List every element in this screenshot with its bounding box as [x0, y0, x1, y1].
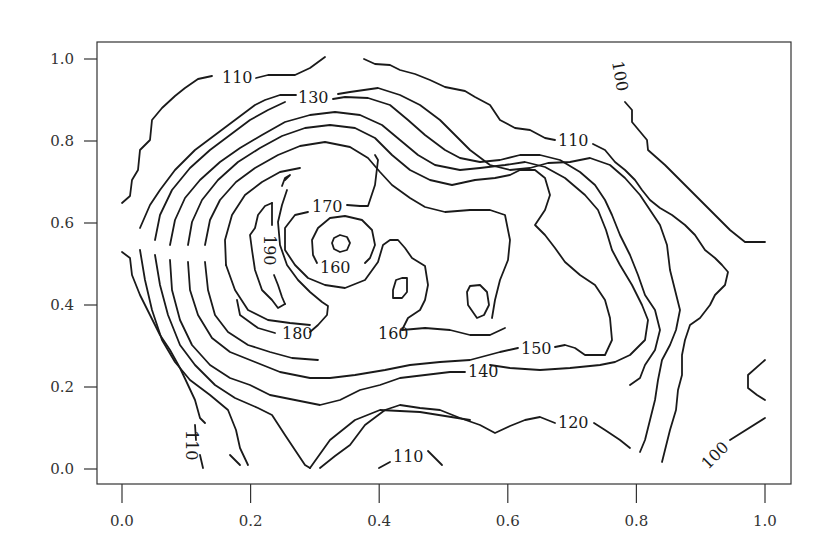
- contour-110-bottom-b: [428, 451, 442, 465]
- contour-170-ring: [285, 212, 428, 330]
- x-tick-label: 0.4: [367, 512, 391, 530]
- contour-label-110-bottom: 110: [393, 447, 424, 466]
- contour-160-outer: [205, 142, 510, 318]
- x-tick-label: 0.8: [624, 512, 648, 530]
- contour-lines: [122, 57, 765, 468]
- contour-190-c: [274, 275, 285, 304]
- contour-110-upper-left-b: [256, 57, 325, 78]
- contour-120-b: [338, 88, 680, 452]
- contour-label-110-right: 110: [558, 131, 589, 150]
- contour-130-lower-b: [310, 410, 470, 468]
- plot-frame: [97, 42, 791, 484]
- contour-label-110-left: 110: [182, 430, 201, 461]
- contour-label-120: 120: [558, 413, 589, 432]
- y-tick-label: 0.0: [50, 460, 74, 478]
- y-axis: 0.0 0.2 0.4 0.6 0.8 1.0: [50, 50, 97, 478]
- contour-label-150: 150: [521, 339, 552, 358]
- contour-label-130-top: 130: [298, 88, 329, 107]
- contour-label-100-top-right: 100: [608, 59, 632, 92]
- contour-label-110-top: 110: [222, 68, 253, 87]
- contour-label-100-bottom-right: 100: [697, 438, 732, 473]
- contour-100-bottom-right: [730, 418, 765, 440]
- contour-label-170: 170: [312, 197, 343, 216]
- contour-130-lower: [155, 255, 310, 468]
- x-tick-label: 0.6: [496, 512, 520, 530]
- y-tick-label: 0.6: [50, 214, 74, 232]
- contour-label-160-lower: 160: [378, 324, 409, 343]
- contour-bottom-left-flicker: [230, 455, 240, 465]
- x-tick-label: 0.2: [239, 512, 263, 530]
- contour-160-outer-b: [402, 328, 505, 335]
- y-tick-label: 0.8: [50, 132, 74, 150]
- contour-island-right: [467, 285, 489, 318]
- contour-peak-ring: [332, 235, 350, 252]
- contour-chart: 0.0 0.2 0.4 0.6 0.8 1.0 0.0 0.2 0.4 0.6 …: [0, 0, 830, 558]
- contour-110-right: [593, 144, 728, 462]
- contour-island-left: [393, 278, 407, 298]
- contour-170-left: [237, 300, 275, 333]
- contour-110-bottom: [379, 462, 390, 468]
- y-tick-label: 0.4: [50, 296, 74, 314]
- contour-180: [282, 175, 290, 186]
- contour-110-upper-left: [122, 76, 212, 203]
- contour-150-left: [188, 262, 518, 378]
- y-tick-label: 0.2: [50, 378, 74, 396]
- contour-100-right-vee: [748, 360, 765, 400]
- contour-100-top-right: [625, 102, 765, 242]
- contour-label-140: 140: [468, 362, 499, 381]
- contour-170-b: [347, 155, 378, 206]
- contour-120-bottom-right: [594, 423, 630, 448]
- contour-label-180: 180: [282, 324, 313, 343]
- x-axis: 0.0 0.2 0.4 0.6 0.8 1.0: [110, 484, 777, 530]
- contour-110-lower-left: [122, 252, 205, 423]
- contour-110-top-right: [364, 59, 555, 140]
- contour-140: [170, 112, 648, 370]
- contour-label-190: 190: [260, 235, 279, 266]
- contour-label-160-inner: 160: [320, 258, 351, 277]
- contour-160-ring: [312, 216, 375, 263]
- y-tick-label: 1.0: [50, 50, 74, 68]
- contour-150: [188, 125, 612, 355]
- x-tick-label: 1.0: [753, 512, 777, 530]
- x-tick-label: 0.0: [110, 512, 134, 530]
